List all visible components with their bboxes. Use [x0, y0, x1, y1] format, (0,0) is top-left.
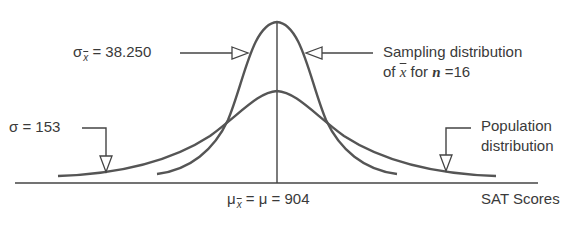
- sampling-distribution-label-line2: of x for n =16: [383, 63, 470, 81]
- sampling-label-text: Sampling distribution: [383, 43, 522, 60]
- sigma-pop-arrow-line: [82, 128, 106, 156]
- mu-symbol: μ: [227, 190, 236, 207]
- population-label-line2: distribution: [481, 137, 554, 155]
- population-arrow-line: [446, 128, 471, 155]
- population-label-line1: Population: [481, 117, 552, 135]
- population-arrowhead-icon: [440, 155, 452, 171]
- mu-subscript: x: [237, 199, 242, 210]
- sigma-symbol: σ: [73, 43, 82, 60]
- n-value: =16: [441, 63, 471, 80]
- of-text: of: [383, 63, 400, 80]
- mean-label: μx = μ = 904: [227, 190, 310, 210]
- xbar-subscript: x: [83, 52, 88, 63]
- sampling-arrowhead-icon: [306, 47, 322, 59]
- sigma-xbar-label: σx = 38.250: [73, 43, 151, 63]
- sigma-pop-arrowhead-icon: [100, 156, 112, 172]
- distribution-text: distribution: [481, 137, 554, 154]
- sigma-xbar-value: = 38.250: [88, 43, 151, 60]
- for-text: for: [406, 63, 432, 80]
- sampling-distribution-label-line1: Sampling distribution: [383, 43, 522, 61]
- mean-value: = μ = 904: [242, 190, 310, 207]
- n-symbol: n: [432, 64, 440, 80]
- sigma-pop-label: σ = 153: [9, 118, 60, 136]
- sigma-xbar-arrowhead-icon: [232, 47, 248, 59]
- population-text: Population: [481, 117, 552, 134]
- x-axis-text: SAT Scores: [481, 190, 560, 207]
- sigma-pop-text: σ = 153: [9, 118, 60, 135]
- x-axis-label: SAT Scores: [481, 190, 560, 208]
